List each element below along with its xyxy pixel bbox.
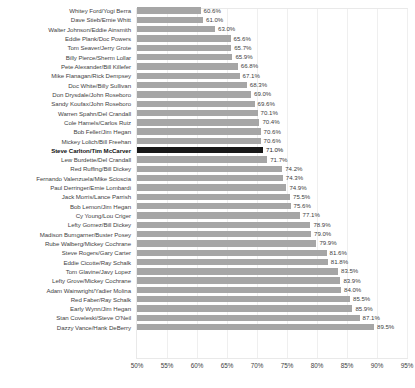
bar-value-label: 74.9% [289,184,306,192]
bar-row: Don Drysdale/John Roseboro69.0% [0,90,415,99]
x-axis-tick-label: 95% [401,362,414,370]
bar-track [137,17,203,23]
bar-category-label: Dave Stieb/Ernie Whitt [0,16,131,23]
bar [137,296,350,302]
bar-category-label: Pete Alexander/Bill Killefer [0,63,131,70]
bar [137,203,291,209]
bar-category-label: Jack Morris/Lance Parrish [0,193,131,200]
bar-value-label: 68.3% [250,81,267,89]
bar-value-label: 65.7% [234,44,251,52]
bar-value-label: 75.5% [293,193,310,201]
bar-category-label: Madison Bumgarner/Buster Posey [0,231,131,238]
bar [137,259,328,265]
bar-row: Jack Morris/Lance Parrish75.5% [0,192,415,201]
bar-value-label: 63.0% [218,25,235,33]
bar [137,45,231,51]
bar-value-label: 71.0% [266,146,283,154]
bar-track [137,147,263,153]
bar-row: Warren Spahn/Del Crandall70.1% [0,108,415,117]
bar-category-label: Cy Young/Lou Criger [0,212,131,219]
bar-row: Stan Coveleski/Steve O'Neil87.1% [0,313,415,322]
x-axis-tick-label: 85% [341,362,354,370]
bar-track [137,305,352,311]
bar-category-label: Red Ruffing/Bill Dickey [0,165,131,172]
bar [137,250,327,256]
bar-value-label: 78.9% [313,221,330,229]
bar [137,305,352,311]
bar-value-label: 81.6% [330,249,347,257]
bar-track [137,101,255,107]
bar-row: Early Wynn/Jim Hegan85.9% [0,304,415,313]
bar [137,268,338,274]
bar-category-label: Whitey Ford/Yogi Berra [0,7,131,14]
bar-row: Eddie Plank/Doc Powers65.6% [0,34,415,43]
bar [137,324,374,330]
bar [137,35,231,41]
bar-track [137,194,290,200]
bar-track [137,287,341,293]
bar-row: Pete Alexander/Bill Killefer66.8% [0,62,415,71]
bar-track [137,212,300,218]
bar [137,277,340,283]
bar-track [137,45,231,51]
bar [137,26,215,32]
bar-category-label: Eddie Plank/Doc Powers [0,35,131,42]
bar-category-label: Cole Hamels/Carlos Ruiz [0,119,131,126]
bar-category-label: Stan Coveleski/Steve O'Neil [0,314,131,321]
bar-track [137,73,240,79]
bar-value-label: 67.1% [243,72,260,80]
bar-track [137,277,340,283]
bar-track [137,128,261,134]
bar-row: Eddie Cicotte/Ray Schalk81.8% [0,257,415,266]
bar [137,17,203,23]
bar-row: Mickey Lolich/Bill Freehan70.6% [0,136,415,145]
bar-row: Rube Walberg/Mickey Cochrane79.9% [0,239,415,248]
bar-value-label: 70.6% [264,128,281,136]
bar-track [137,35,231,41]
bar [137,7,201,13]
bar-track [137,166,282,172]
bar-row: Fernando Valenzuela/Mike Scioscia74.3% [0,174,415,183]
bar-track [137,259,328,265]
bar-row: Sandy Koufax/John Roseboro69.6% [0,99,415,108]
bar-track [137,184,286,190]
bar [137,73,240,79]
bar-track [137,110,258,116]
bar-category-label: Don Drysdale/John Roseboro [0,91,131,98]
bar-row: Dave Stieb/Ernie Whitt61.0% [0,15,415,24]
bar-row: Red Ruffing/Bill Dickey74.2% [0,164,415,173]
bar-row: Paul Derringer/Ernie Lombardi74.9% [0,183,415,192]
bar-value-label: 74.2% [285,165,302,173]
bar-row: Tom Glavine/Javy Lopez83.5% [0,267,415,276]
bar [137,63,238,69]
bar-category-label: Bob Feller/Jim Hegan [0,128,131,135]
bar-track [137,222,310,228]
bar [137,110,258,116]
bar-category-label: Lefty Grove/Mickey Cochrane [0,277,131,284]
bar [137,138,261,144]
bar-track [137,250,327,256]
bar-value-label: 77.1% [303,211,320,219]
bar [137,315,360,321]
bar-value-label: 83.5% [341,267,358,275]
bar-category-label: Paul Derringer/Ernie Lombardi [0,184,131,191]
bar-value-label: 70.4% [262,118,279,126]
bar-row: Billy Pierce/Sherm Lollar65.9% [0,53,415,62]
bar-row: Lefty Gomez/Bill Dickey78.9% [0,220,415,229]
bar-track [137,82,247,88]
bar-category-label: Tom Glavine/Javy Lopez [0,268,131,275]
x-axis-tick-label: 90% [371,362,384,370]
bar-track [137,268,338,274]
x-axis: 50%55%60%65%70%75%80%85%90%95% [136,362,408,378]
bar-track [137,296,350,302]
bar-chart: Whitey Ford/Yogi Berra60.6%Dave Stieb/Er… [0,0,415,388]
bar-value-label: 85.9% [355,305,372,313]
bar [137,156,267,162]
bar-track [137,54,232,60]
bar [137,184,286,190]
bar-category-label: Red Faber/Ray Schalk [0,296,131,303]
bar-value-label: 81.8% [331,258,348,266]
bar-category-label: Lew Burdette/Del Crandall [0,156,131,163]
bar [137,231,311,237]
bar-value-label: 84.0% [344,286,361,294]
